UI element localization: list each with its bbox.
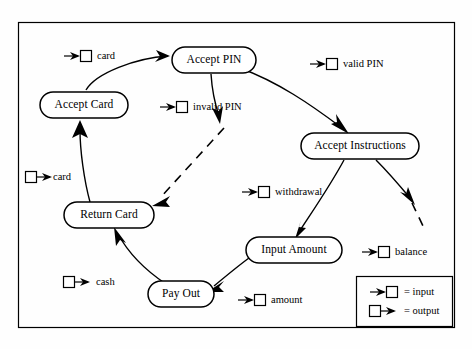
node-pay-out-label: Pay Out [162, 287, 201, 300]
input-flow-icon [238, 295, 266, 306]
edge-accept-pin-to-invalid [211, 74, 223, 124]
node-accept-card-label: Accept Card [55, 98, 114, 111]
node-return-card[interactable]: Return Card [64, 202, 154, 228]
output-flow-icon [370, 306, 397, 317]
node-accept-pin[interactable]: Accept PIN [172, 47, 256, 73]
flow-withdrawal-label: withdrawal [275, 186, 322, 197]
flow-card-out-label: card [53, 171, 72, 182]
edge-input-amount-to-pay-out [207, 258, 249, 292]
node-accept-instructions-label: Accept Instructions [314, 139, 406, 152]
legend: = input = output [357, 277, 453, 327]
node-pay-out[interactable]: Pay Out [148, 281, 214, 307]
diagram-canvas: Accept PIN Accept Card Accept Instructio… [0, 0, 472, 349]
edge-accept-instructions-to-input-amount [295, 160, 344, 239]
edge-pay-out-to-return-card [114, 227, 166, 284]
legend-input-label: = input [404, 286, 434, 297]
output-flow-icon [64, 277, 91, 288]
flow-cash-out: cash [64, 276, 116, 288]
flow-card-in-label: card [97, 50, 116, 61]
flow-valid-pin-label: valid PIN [343, 58, 384, 69]
input-flow-icon [242, 187, 270, 198]
legend-entry-output: = output [370, 305, 440, 317]
atm-dataflow-diagram: Accept PIN Accept Card Accept Instructio… [0, 0, 472, 349]
edge-accept-instructions-to-balance [376, 160, 424, 228]
flow-amount-label: amount [271, 294, 303, 305]
edge-invalid-to-return-card [152, 128, 224, 207]
flow-balance-label: balance [395, 246, 427, 257]
flow-amount: amount [238, 294, 303, 306]
input-flow-icon [160, 102, 188, 113]
arrowhead [331, 114, 349, 134]
legend-entry-input: = input [370, 286, 434, 298]
node-input-amount[interactable]: Input Amount [246, 237, 342, 263]
flow-cash-out-label: cash [96, 276, 115, 287]
node-accept-instructions[interactable]: Accept Instructions [301, 133, 419, 159]
output-flow-icon [26, 172, 53, 183]
legend-output-label: = output [404, 305, 439, 316]
flow-card-in: card [64, 50, 116, 62]
flow-invalid-pin-label: invalid PIN [193, 101, 242, 112]
flow-withdrawal: withdrawal [242, 186, 322, 198]
edge-return-card-to-accept-card [72, 120, 90, 202]
flow-card-out: card [26, 171, 72, 183]
node-return-card-label: Return Card [80, 208, 138, 220]
legend-box [357, 277, 453, 327]
input-flow-icon [310, 59, 338, 70]
node-accept-card[interactable]: Accept Card [40, 92, 128, 118]
input-flow-icon [64, 51, 92, 62]
input-flow-icon [370, 287, 398, 298]
input-flow-icon [362, 247, 390, 258]
arrowhead [152, 196, 170, 207]
flow-invalid-pin: invalid PIN [160, 101, 242, 113]
flow-valid-pin: valid PIN [310, 58, 384, 70]
node-input-amount-label: Input Amount [261, 243, 327, 256]
arrowhead [155, 50, 170, 62]
node-accept-pin-label: Accept PIN [187, 53, 243, 66]
edge-accept-pin-to-accept-instructions [240, 68, 349, 134]
flow-balance: balance [362, 246, 427, 258]
